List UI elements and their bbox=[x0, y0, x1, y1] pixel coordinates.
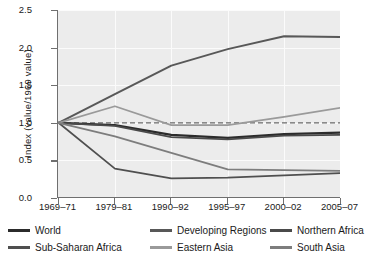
x-tick-mark bbox=[283, 198, 284, 204]
legend-label: Northern Africa bbox=[297, 226, 364, 236]
y-tick-mark bbox=[51, 85, 57, 86]
line-chart: Index (value/1969 value) 0.00.51.01.52.0… bbox=[0, 0, 375, 265]
y-tick-label: 1.0 bbox=[0, 118, 32, 128]
series-line-south-asia bbox=[59, 123, 341, 171]
y-tick-mark bbox=[51, 160, 57, 161]
y-tick-label: 0.5 bbox=[0, 155, 32, 165]
x-tick-mark bbox=[114, 198, 115, 204]
legend-item-world[interactable]: World bbox=[8, 222, 61, 239]
legend-label: Sub-Saharan Africa bbox=[35, 243, 122, 253]
legend-row: WorldDeveloping RegionsNorthern Africa bbox=[8, 222, 368, 239]
legend-swatch-icon bbox=[8, 229, 30, 231]
legend-item-northern-africa[interactable]: Northern Africa bbox=[270, 222, 364, 239]
y-tick-mark bbox=[51, 48, 57, 49]
legend-label: South Asia bbox=[297, 243, 345, 253]
y-tick-label: 2.0 bbox=[0, 43, 32, 53]
legend-label: Developing Regions bbox=[177, 226, 267, 236]
legend-item-south-asia[interactable]: South Asia bbox=[270, 239, 345, 256]
legend-label: Eastern Asia bbox=[177, 243, 233, 253]
legend-swatch-icon bbox=[8, 246, 30, 248]
legend-item-sub-saharan-africa[interactable]: Sub-Saharan Africa bbox=[8, 239, 122, 256]
y-tick-mark bbox=[51, 123, 57, 124]
x-tick-mark bbox=[58, 198, 59, 204]
chart-legend: WorldDeveloping RegionsNorthern AfricaSu… bbox=[8, 222, 368, 262]
legend-swatch-icon bbox=[150, 229, 172, 231]
y-tick-label: 1.5 bbox=[0, 80, 32, 90]
series-svg bbox=[58, 10, 340, 197]
y-tick-label: 2.5 bbox=[0, 5, 32, 15]
legend-item-developing-regions[interactable]: Developing Regions bbox=[150, 222, 267, 239]
plot-area bbox=[57, 10, 340, 198]
x-tick-mark bbox=[227, 198, 228, 204]
x-tick-mark bbox=[170, 198, 171, 204]
y-tick-mark bbox=[51, 198, 57, 199]
plot-inner bbox=[58, 10, 340, 197]
legend-row: Sub-Saharan AfricaEastern AsiaSouth Asia bbox=[8, 239, 368, 256]
y-tick-mark bbox=[51, 10, 57, 11]
legend-item-eastern-asia[interactable]: Eastern Asia bbox=[150, 239, 233, 256]
legend-swatch-icon bbox=[270, 246, 292, 248]
legend-swatch-icon bbox=[270, 229, 292, 231]
legend-swatch-icon bbox=[150, 246, 172, 248]
x-tick-mark bbox=[340, 198, 341, 204]
legend-label: World bbox=[35, 226, 61, 236]
